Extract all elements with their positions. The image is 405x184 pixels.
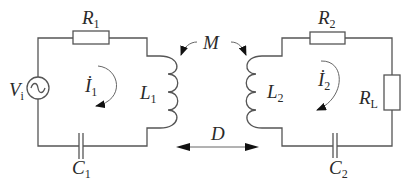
resistor-rl: [384, 75, 400, 110]
label-l1: L1: [140, 83, 157, 105]
resistor-r1: [73, 31, 109, 44]
label-vi: Vi: [9, 80, 24, 102]
current-arrow-i1: [96, 66, 117, 106]
label-l2: L2: [267, 82, 284, 104]
mutual-arrow-left: [181, 42, 197, 55]
label-m: M: [203, 33, 219, 52]
capacitor-c1: [79, 133, 83, 159]
mutual-arrow-right: [231, 42, 246, 55]
inductor-l2: [246, 56, 262, 128]
label-r2: R2: [318, 8, 336, 30]
label-r1: R1: [82, 8, 100, 30]
label-c1: C1: [72, 158, 91, 180]
label-c2: C2: [329, 158, 348, 180]
label-rl: RL: [359, 88, 378, 110]
resistor-r2: [310, 32, 345, 44]
label-i2: İ2: [318, 70, 330, 92]
capacitor-c2: [333, 133, 337, 158]
ac-source-vi: [27, 77, 49, 99]
label-d: D: [211, 124, 225, 143]
distance-arrow: [176, 143, 259, 151]
inductor-l1: [160, 56, 178, 128]
label-i1: İ1: [85, 76, 97, 98]
circuit-diagram: [0, 0, 405, 184]
